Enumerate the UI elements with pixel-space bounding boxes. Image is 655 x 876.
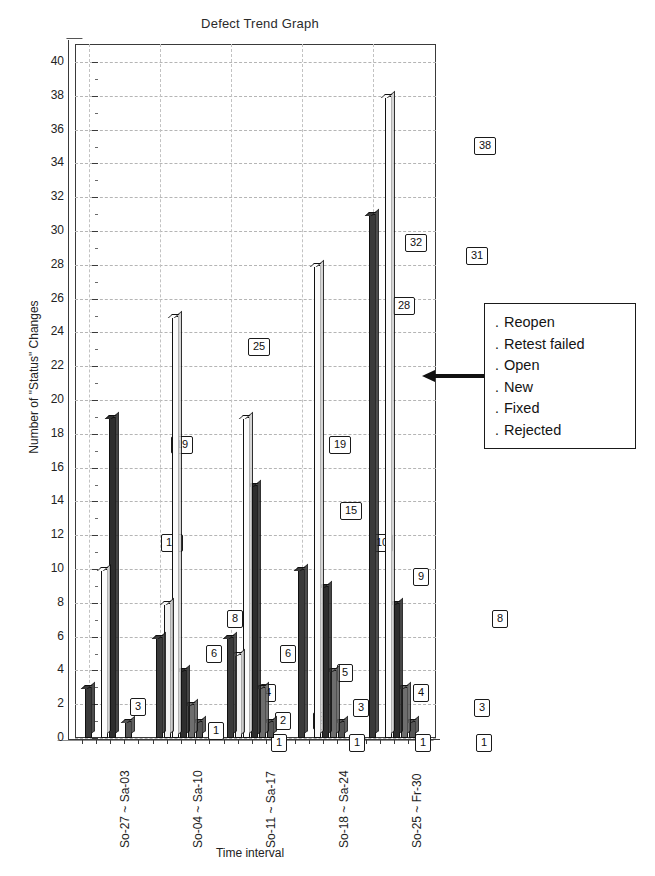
bar-side-face bbox=[304, 564, 308, 734]
legend-bullet-icon: . bbox=[495, 398, 504, 420]
data-label-callout: 15 bbox=[340, 502, 362, 520]
legend-bullet-icon: . bbox=[495, 334, 504, 356]
data-label-callout: 3 bbox=[474, 699, 490, 717]
y-tick-label: 34 bbox=[34, 155, 64, 169]
y-tick-label: 0 bbox=[34, 730, 64, 744]
chart-title: Defect Trend Graph bbox=[120, 16, 400, 31]
data-label-callout: 38 bbox=[474, 137, 496, 155]
bar-reopen bbox=[298, 569, 305, 738]
x-tick-mark bbox=[153, 739, 154, 744]
bar-side-face bbox=[107, 564, 111, 734]
data-label-callout: 8 bbox=[227, 610, 243, 628]
bar-reopen bbox=[369, 214, 376, 738]
data-label-callout: 4 bbox=[413, 684, 429, 702]
bar-reopen bbox=[85, 687, 92, 738]
bar-side-face bbox=[233, 631, 237, 734]
legend-item-fixed[interactable]: .Fixed bbox=[495, 398, 635, 420]
data-label-callout: 6 bbox=[206, 645, 222, 663]
y-tick-label: 4 bbox=[34, 662, 64, 676]
data-label-callout: 28 bbox=[393, 297, 415, 315]
bar-side-face bbox=[336, 665, 340, 734]
y-tick-label: 30 bbox=[34, 223, 64, 237]
bar-open bbox=[314, 265, 321, 738]
bar-reopen bbox=[227, 637, 234, 738]
y-tick-label: 32 bbox=[34, 189, 64, 203]
y-axis-title: Number of "Status" Changes bbox=[27, 247, 41, 507]
legend-item-retest-failed[interactable]: .Retest failed bbox=[495, 334, 635, 356]
legend-bullet-icon: . bbox=[495, 312, 504, 334]
bar-side-face bbox=[257, 479, 261, 734]
data-label-callout: 32 bbox=[405, 234, 427, 252]
bar-side-face bbox=[170, 598, 174, 734]
data-label-callout: 19 bbox=[329, 436, 351, 454]
bar-side-face bbox=[249, 412, 253, 734]
y-tick-label: 8 bbox=[34, 595, 64, 609]
x-tick-mark bbox=[380, 739, 381, 744]
x-tick-mark bbox=[252, 739, 253, 744]
legend-bullet-icon: . bbox=[495, 377, 504, 399]
y-tick-mark bbox=[92, 738, 98, 739]
data-label-callout: 2 bbox=[275, 712, 291, 730]
x-tick-mark bbox=[138, 739, 139, 744]
bar-side-face bbox=[328, 581, 332, 734]
chart-page: Defect Trend Graph 024681012141618202224… bbox=[0, 0, 655, 876]
legend-item-open[interactable]: .Open bbox=[495, 355, 635, 377]
bar-side-face bbox=[115, 412, 119, 734]
y-tick-label: 2 bbox=[34, 696, 64, 710]
legend-bullet-icon: . bbox=[495, 420, 504, 442]
x-tick-mark bbox=[181, 739, 182, 744]
bar-open bbox=[101, 569, 108, 738]
bar-side-face bbox=[391, 91, 395, 734]
legend-bullet-icon: . bbox=[495, 355, 504, 377]
legend-item-new[interactable]: .New bbox=[495, 377, 635, 399]
data-label-callout: 8 bbox=[492, 610, 508, 628]
y-tick-label: 36 bbox=[34, 122, 64, 136]
y-tick-label: 40 bbox=[34, 54, 64, 68]
data-label-callout: 9 bbox=[413, 568, 429, 586]
data-label-callout: 31 bbox=[466, 247, 488, 265]
data-label-callout: 3 bbox=[353, 699, 369, 717]
legend-item-label: Reopen bbox=[504, 312, 555, 334]
x-tick-mark bbox=[96, 739, 97, 744]
bar-side-face bbox=[241, 648, 245, 734]
y-tick-label: 38 bbox=[34, 88, 64, 102]
y-tick-label: 12 bbox=[34, 527, 64, 541]
bar-rejected bbox=[125, 721, 132, 738]
data-label-callout: 3 bbox=[130, 698, 146, 716]
bar-side-face bbox=[162, 631, 166, 734]
x-tick-mark bbox=[323, 739, 324, 744]
bar-side-face bbox=[91, 682, 95, 734]
bar-side-face bbox=[186, 665, 190, 734]
bar-side-face bbox=[375, 209, 379, 734]
bar-open bbox=[385, 96, 392, 738]
legend-item-label: Fixed bbox=[504, 398, 539, 420]
data-label-callout: 1 bbox=[208, 722, 224, 740]
data-label-callout: 1 bbox=[349, 734, 365, 752]
x-axis-title: Time interval bbox=[150, 846, 350, 860]
x-tick-mark bbox=[82, 739, 83, 744]
bar-side-face bbox=[194, 699, 198, 734]
x-tick-mark bbox=[366, 739, 367, 744]
data-label-callout: 6 bbox=[280, 645, 296, 663]
data-label-callout: 25 bbox=[248, 338, 270, 356]
data-label-callout: 1 bbox=[476, 734, 492, 752]
y-tick-label: 6 bbox=[34, 629, 64, 643]
x-tick-mark bbox=[224, 739, 225, 744]
x-tick-mark bbox=[309, 739, 310, 744]
arrow-shaft bbox=[434, 374, 484, 378]
x-tick-mark bbox=[295, 739, 296, 744]
y-axis-line bbox=[68, 40, 69, 740]
bar-reopen bbox=[156, 637, 163, 738]
legend-item-reopen[interactable]: .Reopen bbox=[495, 312, 635, 334]
x-tick-mark bbox=[408, 739, 409, 744]
y-tick-label: 10 bbox=[34, 561, 64, 575]
legend-item-label: Open bbox=[504, 355, 539, 377]
legend-item-rejected[interactable]: .Rejected bbox=[495, 420, 635, 442]
legend-item-label: New bbox=[504, 377, 533, 399]
x-tick-mark bbox=[394, 739, 395, 744]
bar-side-face bbox=[320, 260, 324, 734]
bar-side-face bbox=[265, 682, 269, 734]
legend-pointer-arrow bbox=[422, 370, 484, 382]
legend-item-label: Rejected bbox=[504, 420, 561, 442]
x-tick-mark bbox=[167, 739, 168, 744]
